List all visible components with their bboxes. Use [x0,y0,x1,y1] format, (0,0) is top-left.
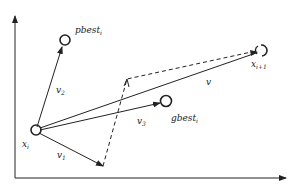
v1-label: v1 [57,150,66,161]
x-i-particle [31,125,41,135]
x-next-particle [261,45,267,56]
v3-label: v3 [137,116,146,127]
v-label: v [206,77,211,87]
pso-velocity-diagram: pbesti gbesti xi xi+1 v2 v1 v3 v [0,0,289,191]
gbest-circle [161,96,172,107]
vector-v [40,53,256,128]
x-next-particle-left [255,46,258,54]
x-i-label: xi [22,139,29,150]
diagram-canvas: pbesti gbesti xi xi+1 v2 v1 v3 v [0,0,289,191]
dashed-path [103,51,256,166]
pbest-label: pbesti [75,25,102,36]
gbest-label: gbesti [171,113,198,124]
v2-label: v2 [56,85,65,96]
x-next-label: xi+1 [251,59,267,70]
vector-v1 [39,133,103,166]
dashed-arrowhead [124,79,129,87]
pbest-circle [60,35,70,45]
